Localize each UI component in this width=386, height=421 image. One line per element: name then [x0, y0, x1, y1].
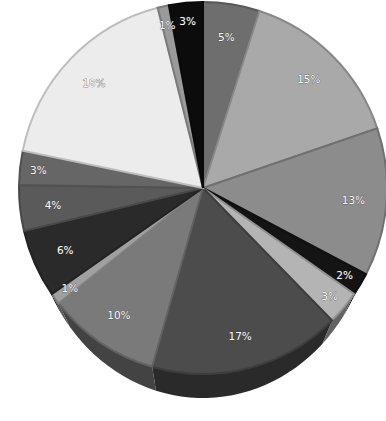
slice-label: 6%: [57, 244, 74, 256]
slice-label: 15%: [297, 73, 320, 85]
slice-label: 3%: [321, 290, 338, 302]
slice-label: 17%: [228, 330, 251, 342]
pie-chart: 5%15%13%2%3%17%10%1%6%4%3%18%1%3%: [0, 0, 386, 421]
slice-label: 1%: [62, 282, 79, 294]
slice-label: 1%: [159, 19, 176, 31]
slice-label: 4%: [45, 199, 62, 211]
slice-label: 10%: [107, 309, 130, 321]
slice-label: 3%: [179, 15, 196, 27]
slice-label: 13%: [342, 194, 365, 206]
slice-label: 18%: [82, 77, 105, 89]
slice-label: 5%: [218, 31, 235, 43]
slice-label: 2%: [336, 269, 353, 281]
pie-slices: [19, 2, 386, 374]
slice-label: 3%: [30, 164, 47, 176]
